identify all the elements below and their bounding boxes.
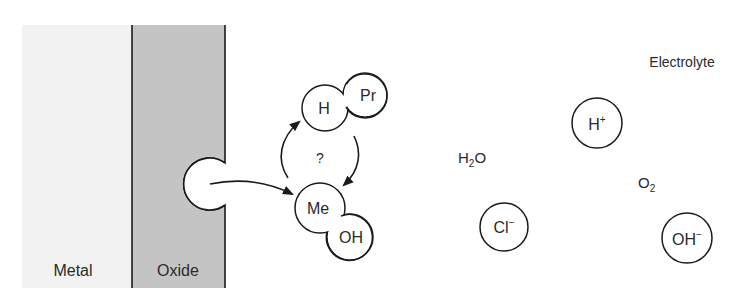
svg-text:OH−: OH− xyxy=(672,229,702,248)
svg-text:H+: H+ xyxy=(588,114,606,133)
me-label: Me xyxy=(307,200,329,217)
me-oh-complex: Me OH xyxy=(295,183,373,260)
cycle-arrow-up xyxy=(281,122,299,178)
oxide-label: Oxide xyxy=(157,262,199,279)
h-plus-ion: H+ xyxy=(572,98,622,148)
h-label: H xyxy=(318,100,330,117)
svg-text:Cl−: Cl− xyxy=(494,217,515,236)
cycle-arrow-down xyxy=(344,136,359,185)
pr-label: Pr xyxy=(360,87,377,104)
oxide-region xyxy=(132,25,225,288)
corrosion-diagram: Metal Oxide Electrolyte ? H Pr Me OH H+ … xyxy=(0,0,740,303)
metal-region xyxy=(22,25,132,288)
electrolyte-label: Electrolyte xyxy=(649,54,715,70)
chloride-ion: Cl− xyxy=(480,203,528,251)
cycle-question-mark: ? xyxy=(316,150,324,166)
water-label: H2O xyxy=(458,149,486,169)
oh-label: OH xyxy=(339,229,363,246)
h-pr-complex: H Pr xyxy=(302,73,387,131)
metal-label: Metal xyxy=(53,262,92,279)
oxygen-label: O2 xyxy=(638,174,656,194)
hydroxide-ion: OH− xyxy=(662,213,712,263)
